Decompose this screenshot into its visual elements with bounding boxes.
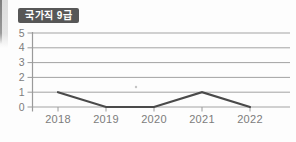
scan-speck	[135, 86, 137, 88]
line-chart-svg: 01234520182019202020212022	[0, 0, 296, 142]
x-tick-label: 2021	[189, 113, 215, 125]
x-tick-label: 2019	[93, 113, 119, 125]
line-chart: 01234520182019202020212022	[0, 0, 296, 142]
y-tick-label: 2	[19, 71, 25, 83]
y-tick-label: 0	[19, 101, 25, 113]
y-tick-label: 1	[19, 86, 25, 98]
x-tick-label: 2022	[237, 113, 263, 125]
data-line	[58, 92, 250, 107]
x-tick-label: 2020	[141, 113, 167, 125]
x-tick-label: 2018	[45, 113, 71, 125]
scanned-chart-panel: 국가직 9급 01234520182019202020212022	[0, 0, 296, 142]
y-tick-label: 5	[19, 27, 25, 39]
y-tick-label: 3	[19, 56, 25, 68]
y-tick-label: 4	[19, 41, 25, 53]
